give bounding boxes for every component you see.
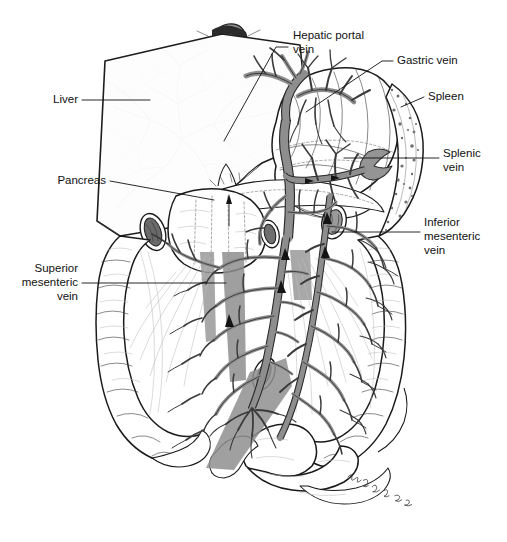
label-pancreas-text: Pancreas bbox=[57, 174, 106, 186]
label-splenic-vein-line2: vein bbox=[443, 161, 464, 173]
label-inferior-mesenteric-vein-line3: vein bbox=[424, 244, 445, 256]
label-inferior-mesenteric-vein-line2: mesenteric bbox=[424, 230, 480, 242]
label-hepatic-portal-vein-line2: vein bbox=[293, 43, 314, 55]
label-hepatic-portal-vein-line1: Hepatic portal bbox=[293, 29, 364, 41]
label-superior-mesenteric-vein-line3: vein bbox=[57, 290, 78, 302]
label-inferior-mesenteric-vein-line1: Inferior bbox=[424, 216, 460, 228]
organ-duodenum bbox=[168, 189, 266, 273]
label-superior-mesenteric-vein-line2: mesenteric bbox=[22, 276, 78, 288]
label-superior-mesenteric-vein-line1: Superior bbox=[35, 262, 79, 274]
label-liver-text: Liver bbox=[53, 93, 78, 105]
hepatic-portal-system-figure: Hepatic portal vein Gastric vein Spleen … bbox=[0, 0, 507, 542]
label-spleen-text: Spleen bbox=[428, 90, 464, 102]
label-gastric-vein-text: Gastric vein bbox=[397, 54, 458, 66]
label-splenic-vein-line1: Splenic bbox=[443, 147, 481, 159]
